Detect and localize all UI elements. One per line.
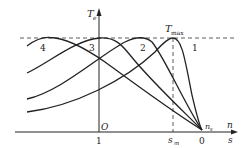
y-axis-arrow-icon <box>97 8 102 16</box>
curve-label-4: 4 <box>40 43 46 53</box>
tick-s-one: 1 <box>96 136 102 146</box>
y-axis-label-sub: e <box>93 14 97 21</box>
tmax-label-sub: max <box>171 29 184 36</box>
origin-label: O <box>101 122 109 132</box>
ns-label-sub: s <box>210 126 213 132</box>
tick-s-m-sub: m <box>174 140 179 146</box>
curve-2 <box>27 38 202 130</box>
x-axis-label-n: n <box>227 120 233 130</box>
torque-speed-diagram: T e T max 1 2 3 4 O 1 s m 0 n s n s <box>0 0 244 148</box>
curve-label-3: 3 <box>89 43 95 53</box>
tick-zero: 0 <box>199 136 205 146</box>
diagram-canvas: T e T max 1 2 3 4 O 1 s m 0 n s n s <box>0 0 244 148</box>
x-axis-arrow-icon <box>231 130 238 135</box>
curve-label-2: 2 <box>140 43 146 53</box>
tick-s-m: s <box>168 135 173 145</box>
x-axis-label-s: s <box>228 135 233 145</box>
curve-label-1: 1 <box>192 43 198 53</box>
